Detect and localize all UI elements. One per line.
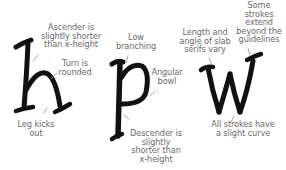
arrow-bowl: [150, 91, 155, 96]
annotation-extend: Some strokes extend beyond the guideline…: [231, 1, 286, 44]
arrow-leg: [44, 108, 47, 113]
arrow-extend: [248, 48, 250, 55]
arrow-branching: [126, 56, 128, 62]
letter-w-glyph: [201, 54, 261, 112]
arrow-serifs: [209, 58, 212, 65]
annotation-curve: All strokes have a slight curve: [206, 120, 280, 137]
annotation-leg: Leg kicks out: [14, 120, 58, 137]
arrow-descender: [124, 115, 129, 119]
arrow-ascender: [33, 55, 38, 61]
typeface-anatomy-diagram: Ascender is slightly shorter than x-heig…: [0, 0, 286, 170]
annotation-bowl: Angular bowl: [147, 68, 187, 85]
annotation-branching: Low branching: [114, 33, 158, 50]
annotation-serifs: Length and angle of slab serifs vary: [172, 28, 238, 54]
annotation-ascender: Ascender is slightly shorter than x-heig…: [34, 23, 108, 49]
annotation-turn: Turn is rounded: [58, 59, 92, 76]
annotation-descender: Descender is slightly shorter than x-hei…: [128, 129, 184, 163]
